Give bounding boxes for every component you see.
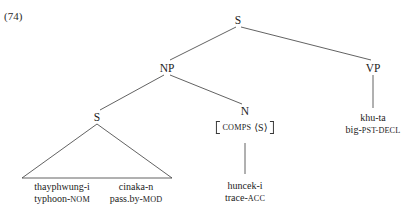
avm-feature-value: ⟨S⟩	[254, 121, 267, 134]
gloss-smallcaps: MOD	[143, 195, 163, 204]
branch-np-n	[170, 75, 242, 104]
gloss-smallcaps: NOM	[70, 195, 90, 204]
leaf-gloss: trace-ACC	[225, 192, 265, 205]
node-vp: VP	[366, 62, 381, 74]
gloss-stem: trace-	[225, 192, 248, 203]
leaf-huncek: huncek-i trace-ACC	[225, 180, 265, 204]
gloss-smallcaps: ACC	[248, 194, 265, 203]
leaf-cinaka: cinaka-n pass.by-MOD	[110, 181, 163, 205]
avm-right-bracket	[270, 121, 274, 134]
leaf-gloss: typhoon-NOM	[34, 193, 90, 206]
leaf-form: khu-ta	[360, 112, 386, 123]
node-n: N	[241, 105, 249, 117]
node-s-relative: S	[94, 111, 100, 123]
gloss-stem: pass.by-	[110, 193, 143, 204]
leaf-gloss: big-PST-DECL	[346, 124, 401, 137]
avm-body: COMPS ⟨S⟩	[220, 121, 270, 134]
branch-np-srel	[100, 75, 164, 110]
leaf-form: cinaka-n	[119, 181, 153, 192]
leaf-form: thayphwung-i	[34, 181, 90, 192]
leaf-form: huncek-i	[228, 180, 263, 191]
node-s-root: S	[235, 14, 241, 26]
leaf-khuta: khu-ta big-PST-DECL	[346, 112, 401, 136]
branch-s-np	[170, 27, 236, 60]
branch-s-vp	[241, 27, 371, 60]
leaf-thayphwung: thayphwung-i typhoon-NOM	[34, 181, 90, 205]
gloss-stem: typhoon-	[34, 193, 70, 204]
gloss-stem: big-	[346, 124, 362, 135]
figure-canvas: (74) S NP VP S N COMPS ⟨S⟩ thayphwung-i …	[0, 0, 409, 216]
triangle-srel	[22, 124, 172, 178]
avm-feature-name: COMPS	[222, 121, 251, 134]
leaf-gloss: pass.by-MOD	[110, 193, 163, 206]
gloss-smallcaps: PST-DECL	[362, 126, 401, 135]
node-np: NP	[160, 62, 175, 74]
feature-matrix-comps: COMPS ⟨S⟩	[216, 121, 274, 134]
